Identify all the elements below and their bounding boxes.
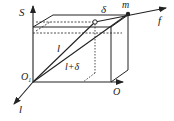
box-diagram: S m δ f l l+δ O1 l O — [0, 0, 174, 121]
label-o-axis: O — [113, 86, 120, 97]
label-f: f — [158, 14, 163, 26]
point-m — [126, 12, 130, 16]
label-origin-main: O — [21, 71, 28, 82]
l-axis — [14, 82, 33, 104]
label-origin-sub: 1 — [28, 77, 31, 83]
label-delta: δ — [101, 3, 107, 15]
box-bottom-right-edge — [111, 70, 128, 82]
label-s: S — [19, 6, 25, 18]
segment-l — [33, 14, 128, 82]
label-segment-l-delta: l+δ — [65, 61, 80, 72]
label-segment-l: l — [57, 42, 60, 54]
label-m: m — [122, 0, 129, 10]
dotted-projection-diag — [83, 73, 95, 82]
point-circle — [93, 20, 97, 24]
label-origin: O1 — [21, 71, 31, 83]
box-top-edge — [33, 15, 130, 27]
diagram-canvas: S m δ f l l+δ O1 l O — [0, 0, 174, 121]
label-l-axis: l — [19, 103, 22, 115]
segment-l-delta — [33, 22, 95, 82]
